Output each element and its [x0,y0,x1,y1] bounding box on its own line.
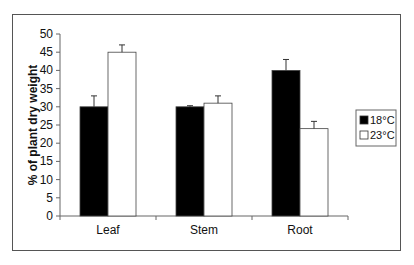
y-tick-label: 20 [40,136,54,150]
bar-stem-0 [176,107,204,216]
bar-leaf-0 [80,107,108,216]
x-tick-label: Root [287,223,313,237]
bar-leaf-1 [108,52,136,216]
legend-label-1: 23°C [370,129,395,141]
x-tick-label: Leaf [96,223,120,237]
legend-swatch-0 [360,116,368,124]
x-tick-label: Stem [190,223,218,237]
y-tick-label: 0 [46,209,53,223]
bar-root-0 [272,70,300,216]
y-tick-label: 45 [40,45,54,59]
y-tick-label: 35 [40,82,54,96]
y-tick-label: 5 [46,191,53,205]
y-tick-label: 40 [40,63,54,77]
y-axis-label: % of plant dry weight [26,65,40,186]
y-tick-label: 15 [40,154,54,168]
bar-chart: 05101520253035404550% of plant dry weigh… [0,0,414,265]
bar-stem-1 [204,103,232,216]
legend-label-0: 18°C [370,114,395,126]
y-tick-label: 30 [40,100,54,114]
y-tick-label: 10 [40,173,54,187]
bar-root-1 [300,129,328,216]
y-tick-label: 25 [40,118,54,132]
y-tick-label: 50 [40,27,54,41]
legend-swatch-1 [360,131,368,139]
